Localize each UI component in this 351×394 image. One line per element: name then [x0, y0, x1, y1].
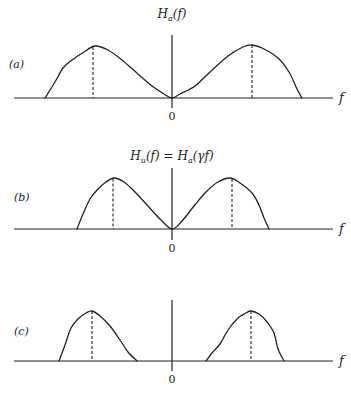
panel-label: (b): [14, 191, 30, 204]
panel-title: Hu(f) = Ha(γf): [129, 149, 214, 165]
panel-b: f0(b)Hu(f) = Ha(γf): [14, 149, 346, 255]
panel-c: f0(c): [14, 300, 346, 386]
spectrum-curve: [77, 178, 269, 229]
panel-label: (a): [9, 58, 24, 71]
spectrum-curve: [206, 311, 284, 361]
x-axis-label: f: [338, 353, 346, 368]
spectrum-curve: [45, 45, 302, 98]
x-axis-label: f: [338, 90, 346, 105]
x-axis-label: f: [338, 221, 346, 236]
origin-label: 0: [169, 373, 176, 386]
origin-label: 0: [169, 110, 176, 123]
panel-title: Ha(f): [156, 7, 186, 23]
spectrum-curve: [59, 311, 137, 361]
panel-a: f0(a)Ha(f): [9, 7, 346, 123]
origin-label: 0: [169, 242, 176, 255]
panel-label: (c): [14, 325, 29, 338]
spectrum-figure: f0(a)Ha(f) f0(b)Hu(f) = Ha(γf) f0(c): [0, 0, 351, 394]
